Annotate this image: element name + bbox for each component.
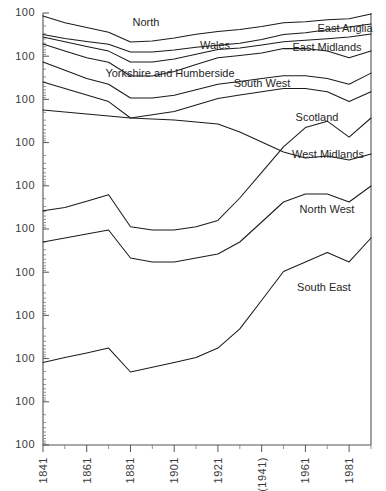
x-tick-label: 1841 [37,457,49,483]
y-tick-label: 100 [15,222,35,234]
x-axis-ticks [43,445,371,452]
series-label: Wales [200,39,231,51]
series-label: Yorkshire and Humberside [105,67,234,79]
y-tick-label: 100 [15,352,35,364]
x-tick-label: 1921 [212,457,224,483]
y-axis-ticks [43,13,49,445]
x-tick-label: (1941) [256,457,268,491]
x-tick-label: 1981 [343,457,355,483]
x-tick-label: 1881 [124,457,136,483]
y-tick-label: 100 [15,179,35,191]
x-tick-label: 1861 [81,457,93,483]
y-tick-label: 100 [15,93,35,105]
chart-container: 100100100100100100100100100100100 184118… [0,0,386,491]
y-tick-label: 100 [15,309,35,321]
y-tick-label: 100 [15,266,35,278]
x-tick-label: 1961 [299,457,311,483]
y-axis-labels: 100100100100100100100100100100100 [15,6,35,450]
x-axis-labels: 18411861188119011921(1941)19611981 [37,457,355,491]
series-label: Scotland [296,111,339,123]
series-labels: NorthEast AngliaWalesEast MidlandsYorksh… [105,16,373,293]
y-tick-label: 100 [15,395,35,407]
x-tick-label: 1901 [168,457,180,483]
series-line [43,238,371,372]
series-label: North West [300,203,355,215]
y-tick-label: 100 [15,438,35,450]
y-tick-label: 100 [15,6,35,18]
series-label: West Midlands [292,148,364,160]
population-index-line-chart: 100100100100100100100100100100100 184118… [0,0,386,491]
series-label: North [133,16,160,28]
series-label: East Anglia [317,22,373,34]
series-label: South East [297,281,351,293]
series-label: East Midlands [292,41,362,53]
y-tick-label: 100 [15,50,35,62]
series-label: South West [234,77,291,89]
y-tick-label: 100 [15,136,35,148]
